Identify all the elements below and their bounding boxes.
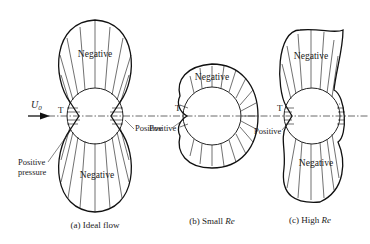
label-negative-bottom-c: Negative: [299, 158, 333, 168]
label-positive-pressure-2: pressure: [18, 167, 47, 177]
label-T-c: T: [277, 103, 283, 113]
flow-label: U0: [31, 99, 42, 112]
caption-c: (c) High Re: [289, 215, 331, 225]
caption-b: (b) Small Re: [189, 216, 235, 226]
panel-small-re: Negative T Positive (b) Small Re: [149, 64, 258, 226]
label-positive-pressure-1: Positive: [18, 157, 46, 167]
label-negative-top-a: Negative: [78, 49, 112, 59]
caption-a: (a) Ideal flow: [71, 220, 120, 230]
label-positive-c: Positive: [254, 126, 282, 136]
label-negative-bottom-a: Negative: [80, 170, 114, 180]
label-T-b: T: [175, 103, 181, 113]
pressure-distribution-diagram: U0: [0, 0, 370, 244]
panel-ideal-flow: Negative Negative T Positive Positive pr…: [18, 20, 163, 230]
flow-arrow-icon: [28, 113, 50, 120]
label-negative-b: Negative: [195, 72, 229, 82]
panel-high-re: Negative Negative T Positive (c) High Re: [254, 30, 345, 225]
label-T-a: T: [58, 105, 64, 115]
label-negative-top-c: Negative: [294, 51, 328, 61]
